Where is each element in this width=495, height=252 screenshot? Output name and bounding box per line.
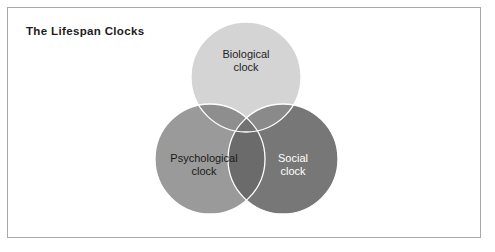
venn-svg (0, 0, 495, 252)
figure-container: The Lifespan Clocks (0, 0, 495, 252)
venn-diagram: Biological clock Psychological clock Soc… (0, 0, 495, 252)
